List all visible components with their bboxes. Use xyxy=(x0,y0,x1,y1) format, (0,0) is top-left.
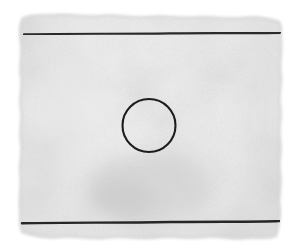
paper-smudge-secondary xyxy=(88,178,156,218)
paper-scan-image xyxy=(0,0,301,251)
deckled-paper-sheet xyxy=(0,0,301,251)
scan-canvas xyxy=(0,0,301,251)
paper-light-patch xyxy=(30,65,110,175)
top-rule-line xyxy=(24,33,280,35)
